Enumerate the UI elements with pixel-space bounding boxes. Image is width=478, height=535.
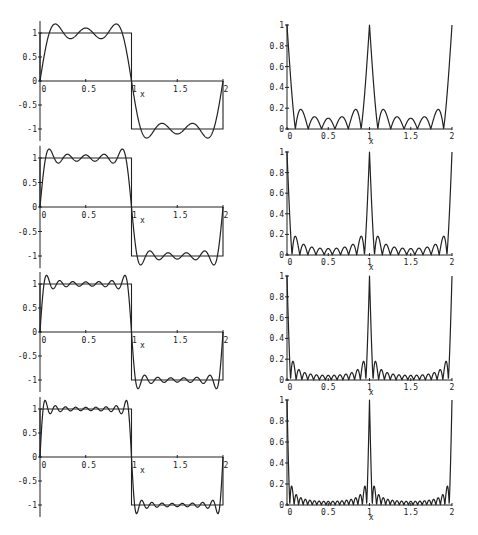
x-tick-label: 1.5 xyxy=(404,383,419,392)
y-tick-label: 0 xyxy=(32,453,37,462)
x-tick-label: 0.5 xyxy=(82,211,97,220)
x-tick-label: 0.5 xyxy=(321,132,336,141)
y-tick-label: -1 xyxy=(27,376,37,385)
x-tick-label: 2 xyxy=(224,85,229,94)
y-tick-label: 1 xyxy=(32,405,37,414)
x-tick-label: 1.5 xyxy=(173,211,188,220)
x-tick-label: 0 xyxy=(288,258,293,267)
x-tick-label: 0 xyxy=(42,461,47,470)
figure: -1-0.500.5100.511.52x-1-0.500.5100.511.5… xyxy=(0,0,478,535)
y-tick-label: 0.8 xyxy=(270,42,285,51)
left-panel-3: -1-0.500.5100.511.52x xyxy=(18,272,229,392)
y-tick-label: -1 xyxy=(27,125,37,134)
x-tick-label: 0.5 xyxy=(82,461,97,470)
y-tick-label: -1 xyxy=(27,501,37,510)
y-tick-label: 0.4 xyxy=(270,459,285,468)
y-tick-label: 0.5 xyxy=(23,179,38,188)
x-tick-label: 0 xyxy=(42,85,47,94)
x-axis-label: x xyxy=(140,90,145,99)
x-tick-label: 0 xyxy=(288,132,293,141)
y-tick-label: 0.4 xyxy=(270,210,285,219)
right-panel-2: 00.20.40.60.8100.511.52x xyxy=(270,148,455,272)
x-tick-label: 0 xyxy=(42,211,47,220)
y-tick-label: 0.2 xyxy=(270,104,285,113)
x-tick-label: 2 xyxy=(450,508,455,517)
y-tick-label: 0 xyxy=(279,501,284,510)
y-tick-label: 0.4 xyxy=(270,83,285,92)
y-tick-label: 0.6 xyxy=(270,314,285,323)
y-tick-label: 0.6 xyxy=(270,63,285,72)
y-tick-label: 0.8 xyxy=(270,417,285,426)
error-line xyxy=(287,400,452,505)
x-axis-label: x xyxy=(369,388,374,397)
left-panel-2: -1-0.500.5100.511.52x xyxy=(18,146,229,269)
x-axis-label: x xyxy=(140,341,145,350)
y-tick-label: 0.8 xyxy=(270,169,285,178)
y-tick-label: 0.6 xyxy=(270,189,285,198)
x-axis-label: x xyxy=(369,513,374,522)
y-tick-label: 1 xyxy=(279,272,284,281)
x-tick-label: 0.5 xyxy=(321,258,336,267)
x-tick-label: 2 xyxy=(450,132,455,141)
y-tick-label: 0 xyxy=(279,251,284,260)
x-tick-label: 1.5 xyxy=(404,508,419,517)
right-panel-1: 00.20.40.60.8100.511.52x xyxy=(270,21,455,146)
x-tick-label: 0.5 xyxy=(82,85,97,94)
y-tick-label: 0.2 xyxy=(270,230,285,239)
x-tick-label: 0.5 xyxy=(82,336,97,345)
error-line xyxy=(287,25,452,129)
y-tick-label: 0 xyxy=(279,125,284,134)
y-tick-label: 0.2 xyxy=(270,355,285,364)
y-tick-label: 0 xyxy=(32,77,37,86)
x-axis-label: x xyxy=(369,263,374,272)
y-tick-label: 1 xyxy=(32,154,37,163)
y-tick-label: 0.2 xyxy=(270,480,285,489)
x-axis-label: x xyxy=(369,137,374,146)
x-tick-label: 1.5 xyxy=(404,258,419,267)
y-tick-label: 1 xyxy=(279,148,284,157)
y-tick-label: 1 xyxy=(279,21,284,30)
y-tick-label: 0 xyxy=(32,203,37,212)
y-tick-label: 0.8 xyxy=(270,293,285,302)
x-tick-label: 2 xyxy=(224,336,229,345)
x-tick-label: 1.5 xyxy=(404,132,419,141)
x-tick-label: 2 xyxy=(450,258,455,267)
x-tick-label: 1.5 xyxy=(173,336,188,345)
x-tick-label: 2 xyxy=(224,461,229,470)
y-tick-label: 1 xyxy=(32,29,37,38)
y-tick-label: 0.5 xyxy=(23,53,38,62)
x-tick-label: 0.5 xyxy=(321,383,336,392)
y-tick-label: 1 xyxy=(32,280,37,289)
x-tick-label: 1.5 xyxy=(173,85,188,94)
y-tick-label: -0.5 xyxy=(18,477,37,486)
left-panel-4: -1-0.500.5100.511.52x xyxy=(18,397,229,517)
x-tick-label: 0 xyxy=(42,336,47,345)
y-tick-label: 1 xyxy=(279,396,284,405)
left-plots-partial-sums: -1-0.500.5100.511.52x-1-0.500.5100.511.5… xyxy=(18,21,229,517)
x-tick-label: 0.5 xyxy=(321,508,336,517)
x-tick-label: 0 xyxy=(288,383,293,392)
y-tick-label: 0.4 xyxy=(270,334,285,343)
y-tick-label: 0.5 xyxy=(23,304,38,313)
y-tick-label: 0 xyxy=(279,376,284,385)
x-tick-label: 1.5 xyxy=(173,461,188,470)
x-tick-label: 2 xyxy=(224,211,229,220)
left-panel-1: -1-0.500.5100.511.52x xyxy=(18,21,229,141)
x-axis-label: x xyxy=(140,216,145,225)
y-tick-label: 0 xyxy=(32,328,37,337)
right-plots-absolute-error: 00.20.40.60.8100.511.52x00.20.40.60.8100… xyxy=(270,21,455,522)
y-tick-label: 0.5 xyxy=(23,429,38,438)
y-tick-label: -0.5 xyxy=(18,101,37,110)
x-tick-label: 2 xyxy=(450,383,455,392)
y-tick-label: -1 xyxy=(27,252,37,261)
y-tick-label: -0.5 xyxy=(18,228,37,237)
y-tick-label: 0.6 xyxy=(270,438,285,447)
right-panel-4: 00.20.40.60.8100.511.52x xyxy=(270,396,455,522)
error-line xyxy=(287,152,452,255)
y-tick-label: -0.5 xyxy=(18,352,37,361)
x-tick-label: 0 xyxy=(288,508,293,517)
x-axis-label: x xyxy=(140,466,145,475)
error-line xyxy=(287,276,452,380)
x-tick-label: 1 xyxy=(132,461,137,470)
right-panel-3: 00.20.40.60.8100.511.52x xyxy=(270,272,455,397)
